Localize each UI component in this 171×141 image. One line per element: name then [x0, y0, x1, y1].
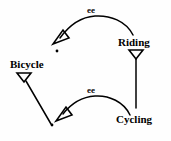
node-label-riding: Riding — [118, 36, 150, 48]
edge-riding-to-dot-upper-curve — [60, 16, 133, 38]
node-label-cycling: Cycling — [116, 113, 152, 125]
edge-label-ee-lower: ee — [87, 86, 95, 95]
dot-lower — [51, 124, 54, 127]
edge-cycling-to-dot-lower-arrowhead — [56, 107, 72, 121]
diagram-canvas: Bicycle Riding Cycling ee ee — [0, 0, 171, 141]
riding-down-triangle-icon — [129, 50, 143, 59]
node-label-bicycle: Bicycle — [10, 58, 44, 70]
edge-label-ee-upper: ee — [87, 6, 95, 15]
bicycle-down-triangle-icon — [17, 73, 31, 82]
edge-bicycle-to-dot-lower-line — [26, 81, 51, 124]
dot-upper — [56, 50, 59, 53]
